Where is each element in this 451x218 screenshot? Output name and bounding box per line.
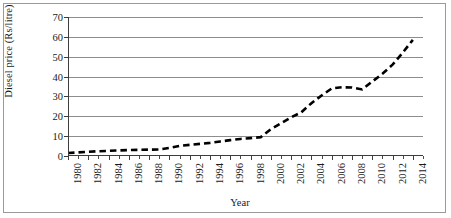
x-axis-minor-tick-mark (423, 156, 424, 159)
x-axis-minor-tick-mark (200, 156, 201, 159)
x-axis-tick-mark (109, 156, 110, 160)
y-axis-tick-label: 30 (37, 91, 63, 102)
x-axis-minor-tick-mark (362, 156, 363, 159)
x-axis-minor-tick-mark (301, 156, 302, 159)
diesel-price-line-series (68, 17, 423, 156)
x-axis-minor-tick-mark (281, 156, 282, 159)
x-axis-minor-tick-mark (261, 156, 262, 159)
x-axis-tick-mark (372, 156, 373, 160)
x-axis-minor-tick-mark (139, 156, 140, 159)
x-axis-title: Year (150, 197, 330, 208)
x-axis-minor-tick-mark (403, 156, 404, 159)
x-axis-minor-tick-mark (240, 156, 241, 159)
y-axis-tick-label: 50 (37, 51, 63, 62)
x-axis-tick-mark (190, 156, 191, 160)
x-axis-minor-tick-mark (159, 156, 160, 159)
x-axis-minor-tick-mark (342, 156, 343, 159)
x-axis-tick-mark (291, 156, 292, 160)
x-axis-tick-mark (251, 156, 252, 160)
x-axis-tick-label: 1980 (72, 163, 83, 184)
x-axis-tick-label: 1992 (194, 163, 205, 184)
x-axis-tick-mark (332, 156, 333, 160)
plot-area: 010203040506070 198019821984198619881990… (68, 17, 423, 156)
x-axis-tick-mark (271, 156, 272, 160)
x-axis-tick-label: 1990 (173, 163, 184, 184)
x-axis-tick-mark (311, 156, 312, 160)
x-axis-tick-label: 2010 (376, 163, 387, 184)
y-axis-tick-label: 20 (37, 111, 63, 122)
x-axis-tick-label: 2012 (397, 163, 408, 184)
x-axis-tick-label: 1982 (92, 163, 103, 184)
x-axis-minor-tick-mark (180, 156, 181, 159)
x-axis-tick-label: 2014 (417, 163, 428, 184)
x-axis-minor-tick-mark (119, 156, 120, 159)
x-axis-tick-mark (149, 156, 150, 160)
x-axis-tick-label: 2004 (315, 163, 326, 184)
x-axis-tick-mark (129, 156, 130, 160)
x-axis-tick-label: 2006 (336, 163, 347, 184)
x-axis-tick-mark (68, 156, 69, 160)
y-axis-tick-label: 0 (37, 151, 63, 162)
x-axis-minor-tick-mark (220, 156, 221, 159)
x-axis-tick-label: 1998 (255, 163, 266, 184)
x-axis-tick-mark (88, 156, 89, 160)
x-axis-minor-tick-mark (98, 156, 99, 159)
x-axis-tick-label: 2008 (356, 163, 367, 184)
x-axis-tick-mark (352, 156, 353, 160)
y-axis-tick-label: 10 (37, 131, 63, 142)
x-axis-tick-mark (413, 156, 414, 160)
x-axis-minor-tick-mark (382, 156, 383, 159)
chart-figure: Diesel price (Rs/litre) Year 01020304050… (0, 0, 451, 218)
x-axis-tick-label: 1996 (234, 163, 245, 184)
y-axis-tick-label: 60 (37, 31, 63, 42)
x-axis-tick-label: 1994 (214, 163, 225, 184)
y-axis-tick-label: 70 (37, 12, 63, 23)
x-axis-tick-label: 2000 (275, 163, 286, 184)
x-axis-tick-label: 2002 (295, 163, 306, 184)
x-axis-tick-label: 1988 (153, 163, 164, 184)
x-axis-tick-label: 1984 (113, 163, 124, 184)
x-axis-minor-tick-mark (78, 156, 79, 159)
x-axis-tick-label: 1986 (133, 163, 144, 184)
y-axis-title: Diesel price (Rs/litre) (3, 0, 19, 116)
y-axis-tick-label: 40 (37, 71, 63, 82)
x-axis-minor-tick-mark (322, 156, 323, 159)
x-axis-tick-mark (230, 156, 231, 160)
x-axis-tick-mark (169, 156, 170, 160)
x-axis-tick-mark (393, 156, 394, 160)
x-axis-tick-mark (210, 156, 211, 160)
